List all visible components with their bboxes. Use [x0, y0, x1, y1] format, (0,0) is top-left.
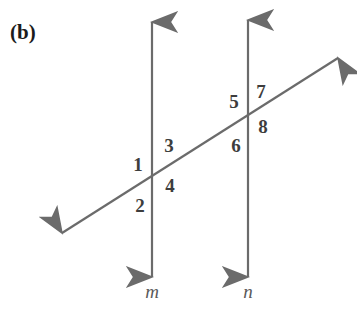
- part-label: (b): [10, 22, 36, 43]
- angle-label-7: 7: [251, 82, 271, 101]
- angle-label-5: 5: [224, 92, 244, 111]
- angle-label-3: 3: [159, 136, 179, 155]
- geometry-figure: (b) 1 2 3 4 5 6 7 8 m n: [0, 0, 357, 312]
- line-label-m: m: [141, 282, 163, 301]
- angle-label-4: 4: [160, 176, 180, 195]
- angle-label-1: 1: [128, 155, 148, 174]
- line-label-n: n: [237, 282, 259, 301]
- angle-label-2: 2: [130, 196, 150, 215]
- figure-canvas: [0, 0, 357, 312]
- transversal-line: [62, 58, 338, 233]
- angle-label-6: 6: [226, 136, 246, 155]
- angle-label-8: 8: [253, 117, 273, 136]
